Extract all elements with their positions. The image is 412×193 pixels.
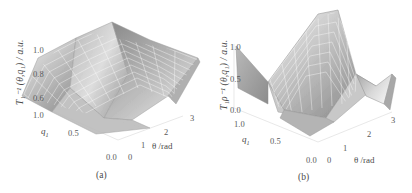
panel-a-x-tick-0: 1.0 <box>33 110 44 120</box>
panel-a-x-tick-2: 0.0 <box>106 152 117 162</box>
panel-b-x-tick-1: 0.5 <box>270 136 281 146</box>
figure-surface-plots: T₁⁻¹ (θ,q₁) / a.u. 1.0 0.8 0.6 1.0 q1 0.… <box>0 0 412 193</box>
panel-a-y-tick-1: 1 <box>141 140 145 150</box>
panel-a-x-axis-sub: 1 <box>46 132 49 138</box>
panel-a-z-axis-label: T₁⁻¹ (θ,q₁) / a.u. <box>14 40 25 105</box>
panel-a-x-axis-label: q1 <box>41 126 49 138</box>
panel-b-y-tick-0: 0 <box>327 155 331 165</box>
panel-b-y-tick-3: 3 <box>391 115 395 125</box>
panel-b-y-axis-label: θ /rad <box>354 155 375 165</box>
panel-a-caption: (a) <box>96 170 107 180</box>
panel-b: T₁ρ⁻¹ (θ,q₁) / a.u. 1.0 0.5 0.0 1.0 q1 0… <box>206 0 412 193</box>
panel-a-z-tick-1: 0.8 <box>33 69 44 79</box>
panel-a-z-tick-0: 1.0 <box>33 45 44 55</box>
panel-b-y-tick-2: 2 <box>367 129 371 139</box>
panel-a-y-tick-2: 2 <box>164 127 168 137</box>
panel-b-y-tick-1: 1 <box>343 143 347 153</box>
panel-a: T₁⁻¹ (θ,q₁) / a.u. 1.0 0.8 0.6 1.0 q1 0.… <box>0 0 206 193</box>
panel-a-y-axis-label: θ /rad <box>152 141 173 151</box>
panel-b-z-tick-2: 0.0 <box>230 105 241 115</box>
panel-a-x-tick-1: 0.5 <box>68 128 79 138</box>
panel-a-y-tick-3: 3 <box>190 113 194 123</box>
panel-b-x-tick-2: 0.0 <box>306 155 317 165</box>
panel-a-y-tick-0: 0 <box>128 152 132 162</box>
panel-b-z-tick-0: 1.0 <box>230 42 241 52</box>
panel-b-caption: (b) <box>298 172 309 182</box>
panel-b-left-blade <box>236 46 268 104</box>
panel-a-surface <box>0 0 206 193</box>
panel-b-z-tick-1: 0.5 <box>230 74 241 84</box>
panel-a-z-tick-2: 0.6 <box>33 93 44 103</box>
panel-b-z-axis-label: T₁ρ⁻¹ (θ,q₁) / a.u. <box>218 40 229 110</box>
panel-b-x-tick-0: 1.0 <box>234 119 245 129</box>
panel-b-x-axis-sub: 1 <box>247 140 250 146</box>
panel-b-x-axis-label: q1 <box>242 134 250 146</box>
panel-a-mesh <box>22 22 200 134</box>
